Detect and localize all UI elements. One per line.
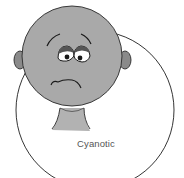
caption-label: Cyanotic <box>0 138 184 149</box>
left-eye <box>58 46 74 61</box>
face-drawing <box>0 0 184 178</box>
right-eye <box>74 46 90 62</box>
cyanotic-illustration: Cyanotic <box>0 0 184 178</box>
